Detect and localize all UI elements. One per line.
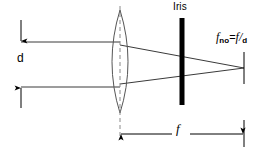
- focal-length-label: f: [176, 122, 180, 135]
- aperture-diameter-label: d: [17, 52, 24, 64]
- optics-diagram-canvas: [0, 0, 272, 150]
- formula-no-subscript: no: [219, 36, 229, 45]
- optics-diagram: d Iris fno=f/d f: [0, 0, 272, 150]
- iris-label: Iris: [173, 2, 187, 12]
- f-number-formula: fno=f/d: [216, 31, 247, 45]
- formula-denominator: d: [242, 36, 247, 45]
- iris-aperture-bar: [180, 18, 185, 105]
